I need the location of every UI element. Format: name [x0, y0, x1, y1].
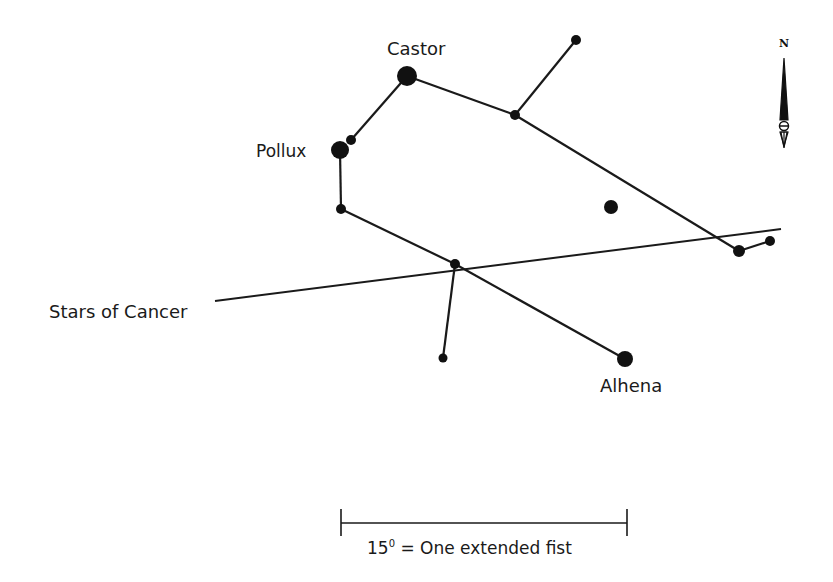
constellation-line: [351, 76, 407, 140]
star-pollux: [331, 141, 349, 159]
star-s2: [450, 259, 460, 269]
star-s1: [336, 204, 346, 214]
scale-degrees-value: 15: [367, 538, 389, 558]
constellation-line: [515, 115, 739, 251]
constellation-line: [455, 264, 625, 359]
constellation-line: [515, 40, 576, 115]
constellation-line: [407, 76, 515, 115]
constellation-lines: [340, 40, 770, 359]
star-label-alhena: Alhena: [600, 377, 662, 395]
constellation-stars: [331, 35, 775, 367]
star-s3: [439, 354, 448, 363]
star-alhena: [617, 351, 633, 367]
scale-bar: [341, 509, 627, 536]
constellation-line: [341, 209, 455, 264]
label-stars-of-cancer: Stars of Cancer: [49, 303, 187, 321]
scale-description: = One extended fist: [395, 538, 572, 558]
star-label-pollux: Pollux: [256, 143, 306, 160]
star-s8: [765, 236, 775, 246]
star-pollux-companion: [346, 135, 356, 145]
scale-label: 150 = One extended fist: [367, 539, 572, 557]
compass-arrow-icon: [780, 58, 789, 148]
ecliptic-line-to-cancer: [215, 229, 781, 301]
star-s6: [604, 200, 618, 214]
star-s4: [510, 110, 520, 120]
constellation-line: [443, 264, 455, 358]
star-castor: [397, 66, 417, 86]
star-label-castor: Castor: [387, 40, 445, 58]
star-s5: [571, 35, 581, 45]
compass-north-label: N: [779, 38, 789, 49]
star-s7: [733, 245, 745, 257]
star-chart: [0, 0, 833, 582]
